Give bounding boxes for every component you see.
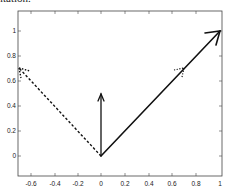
vector-vertical [98, 94, 104, 156]
x-tick-label: -0.6 [25, 180, 37, 187]
y-tick-label: 0.2 [7, 127, 16, 134]
x-tick-label: 0 [99, 180, 103, 187]
x-tick-label: 0.4 [144, 180, 153, 187]
y-tick-label: 0.6 [7, 77, 16, 84]
x-tick-label: 0.8 [191, 180, 200, 187]
vector-diagonal [101, 31, 220, 156]
vector-rotated [19, 68, 101, 156]
x-tick-label: 0.2 [120, 180, 129, 187]
vector-plot: -0.6 -0.4 -0.2 0 0.2 0.4 0.6 0.8 1 0 0.2… [0, 0, 230, 194]
y-tick-label: 0.8 [7, 52, 16, 59]
x-tick-label: -0.4 [49, 180, 61, 187]
x-axis [31, 11, 196, 176]
x-tick-label: 1 [218, 180, 222, 187]
y-tick-label: 0 [12, 152, 16, 159]
y-axis [18, 31, 222, 156]
y-tick-label: 1 [12, 27, 16, 34]
plot-frame [18, 11, 222, 176]
y-tick-label: 0.4 [7, 102, 16, 109]
x-tick-label: 0.6 [167, 180, 176, 187]
x-tick-label: -0.2 [72, 180, 84, 187]
